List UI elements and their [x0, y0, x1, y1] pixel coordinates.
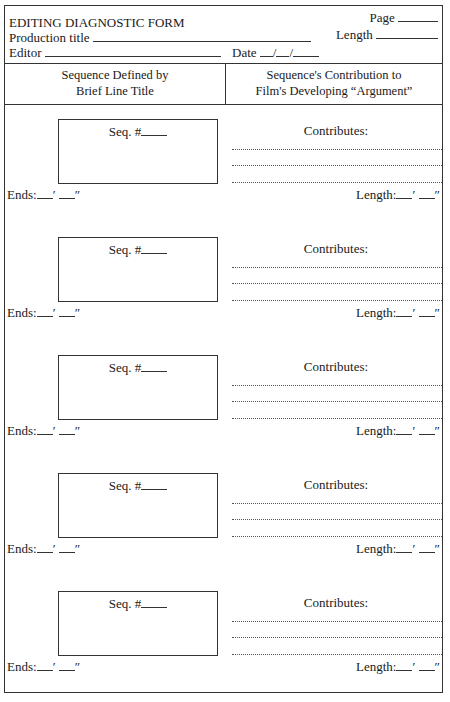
length-inches-line[interactable] — [419, 425, 435, 435]
inch-mark: ″ — [435, 305, 440, 320]
contribution-line-2[interactable] — [232, 283, 442, 284]
sequence-entry-5: Seq. # Contributes: Ends:′ ″ Length:′ ″ — [5, 591, 442, 702]
length-feet-line[interactable] — [396, 189, 412, 199]
seq-number-line[interactable] — [141, 479, 167, 490]
sequence-title-box[interactable]: Seq. # — [58, 355, 218, 420]
inch-mark: ″ — [75, 423, 80, 438]
length-feet-line[interactable] — [396, 543, 412, 553]
length-label: Length: — [356, 187, 396, 202]
page-field: Page — [369, 11, 438, 25]
production-title-input-line[interactable] — [93, 31, 311, 42]
inch-mark: ″ — [75, 187, 80, 202]
date-year-line[interactable] — [293, 46, 319, 57]
seq-number-line[interactable] — [141, 243, 167, 254]
editor-input-line[interactable] — [45, 46, 221, 57]
contribution-line-1[interactable] — [232, 385, 442, 386]
length-feet-line[interactable] — [396, 661, 412, 671]
length-label: Length — [336, 27, 373, 42]
seq-number-line[interactable] — [141, 361, 167, 372]
length-inches-line[interactable] — [419, 661, 435, 671]
length-inches-line[interactable] — [419, 307, 435, 317]
contribution-line-1[interactable] — [232, 149, 442, 150]
header-divider-bottom — [5, 104, 442, 105]
length-field: Length:′ ″ — [356, 187, 440, 203]
editing-diagnostic-form: EDITING DIAGNOSTIC FORM Page Production … — [4, 5, 443, 693]
contribution-line-3[interactable] — [232, 182, 442, 183]
inch-mark: ″ — [435, 659, 440, 674]
feet-mark: ′ — [53, 187, 56, 202]
contributes-label: Contributes: — [230, 359, 442, 375]
page-input-line[interactable] — [398, 11, 438, 22]
inch-mark: ″ — [435, 423, 440, 438]
ends-field: Ends:′ ″ — [7, 541, 80, 557]
length-field: Length:′ ″ — [356, 305, 440, 321]
column-header-line: Sequence's Contribution to — [226, 67, 442, 83]
length-inches-line[interactable] — [419, 543, 435, 553]
feet-mark: ′ — [53, 305, 56, 320]
seq-number-label: Seq. # — [109, 242, 142, 257]
contribution-line-3[interactable] — [232, 300, 442, 301]
contribution-line-2[interactable] — [232, 519, 442, 520]
inch-mark: ″ — [435, 187, 440, 202]
contribution-line-2[interactable] — [232, 637, 442, 638]
seq-number-field: Seq. # — [59, 360, 217, 376]
sequence-title-box[interactable]: Seq. # — [58, 237, 218, 302]
ends-label: Ends: — [7, 541, 37, 556]
contribution-line-3[interactable] — [232, 536, 442, 537]
column-header-contribution: Sequence's Contribution to Film's Develo… — [226, 67, 442, 99]
ends-feet-line[interactable] — [37, 661, 53, 671]
contribution-line-3[interactable] — [232, 654, 442, 655]
sequence-entry-1: Seq. # Contributes: Ends:′ ″ Length:′ ″ — [5, 119, 442, 237]
sequence-title-box[interactable]: Seq. # — [58, 119, 218, 184]
ends-label: Ends: — [7, 187, 37, 202]
ends-feet-line[interactable] — [37, 543, 53, 553]
length-label: Length: — [356, 541, 396, 556]
contribution-line-3[interactable] — [232, 418, 442, 419]
ends-label: Ends: — [7, 659, 37, 674]
feet-mark: ′ — [412, 305, 415, 320]
contribution-line-1[interactable] — [232, 267, 442, 268]
seq-number-label: Seq. # — [109, 124, 142, 139]
date-month-line[interactable] — [260, 46, 273, 57]
length-inches-line[interactable] — [419, 189, 435, 199]
seq-number-label: Seq. # — [109, 596, 142, 611]
ends-inches-line[interactable] — [59, 661, 75, 671]
feet-mark: ′ — [412, 187, 415, 202]
feet-mark: ′ — [412, 423, 415, 438]
seq-number-field: Seq. # — [59, 242, 217, 258]
length-input-line[interactable] — [376, 28, 438, 39]
ends-feet-line[interactable] — [37, 189, 53, 199]
date-label: Date — [232, 45, 257, 60]
contribution-line-2[interactable] — [232, 165, 442, 166]
seq-number-label: Seq. # — [109, 478, 142, 493]
feet-mark: ′ — [412, 659, 415, 674]
sequence-entry-4: Seq. # Contributes: Ends:′ ″ Length:′ ″ — [5, 473, 442, 591]
contribution-line-2[interactable] — [232, 401, 442, 402]
seq-number-line[interactable] — [141, 125, 167, 136]
length-feet-line[interactable] — [396, 425, 412, 435]
ends-inches-line[interactable] — [59, 425, 75, 435]
column-header-line: Brief Line Title — [5, 83, 225, 99]
sequence-title-box[interactable]: Seq. # — [58, 591, 218, 656]
contribution-line-1[interactable] — [232, 621, 442, 622]
date-day-line[interactable] — [276, 46, 289, 57]
seq-number-label: Seq. # — [109, 360, 142, 375]
seq-number-line[interactable] — [141, 597, 167, 608]
ends-inches-line[interactable] — [59, 189, 75, 199]
ends-inches-line[interactable] — [59, 543, 75, 553]
ends-field: Ends:′ ″ — [7, 423, 80, 439]
date-field: Date // — [232, 46, 319, 60]
seq-number-field: Seq. # — [59, 596, 217, 612]
contribution-line-1[interactable] — [232, 503, 442, 504]
inch-mark: ″ — [435, 541, 440, 556]
contributes-label: Contributes: — [230, 123, 442, 139]
ends-inches-line[interactable] — [59, 307, 75, 317]
ends-feet-line[interactable] — [37, 425, 53, 435]
ends-field: Ends:′ ″ — [7, 305, 80, 321]
sequence-title-box[interactable]: Seq. # — [58, 473, 218, 538]
ends-feet-line[interactable] — [37, 307, 53, 317]
feet-mark: ′ — [53, 659, 56, 674]
column-header-line: Sequence Defined by — [5, 67, 225, 83]
length-feet-line[interactable] — [396, 307, 412, 317]
length-field: Length — [336, 28, 438, 42]
